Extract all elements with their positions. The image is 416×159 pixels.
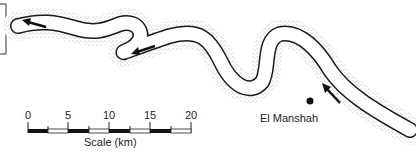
scale-title: Scale (km) — [84, 136, 137, 148]
scale-tick-15: 15 — [144, 109, 156, 121]
scale-tick-20: 20 — [185, 109, 197, 121]
town-marker-icon — [307, 98, 314, 105]
scale-tick-5: 5 — [65, 109, 71, 121]
scale-tick-0: 0 — [25, 109, 31, 121]
river-map — [0, 0, 416, 159]
scale-bar — [28, 122, 191, 133]
place-label: El Manshah — [260, 112, 318, 124]
scale-tick-10: 10 — [103, 109, 115, 121]
